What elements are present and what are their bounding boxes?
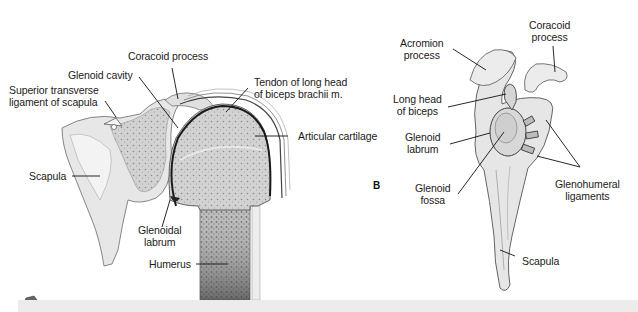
label-glenoid-labrum-b: Glenoid labrum xyxy=(405,131,441,155)
label-long-head-line1: Long head xyxy=(393,93,442,105)
label-tendon-line1: Tendon of long head xyxy=(254,76,347,88)
label-humerus: Humerus xyxy=(149,258,191,270)
label-coracoid-b-line1: Coracoid xyxy=(529,19,570,31)
label-superior-transverse-line1: Superior transverse xyxy=(9,84,99,96)
label-glenoidal-labrum: Glenoidal labrum xyxy=(138,224,181,248)
label-coracoid-process-a: Coracoid process xyxy=(128,50,208,62)
label-scapula-a: Scapula xyxy=(29,170,66,182)
label-glenoid-cavity: Glenoid cavity xyxy=(68,69,133,81)
panel-letter-b: B xyxy=(373,180,380,191)
footer-bar xyxy=(18,300,638,312)
label-superior-transverse-line2: ligament of scapula xyxy=(9,96,99,108)
label-glenoidal-labrum-line1: Glenoidal xyxy=(138,224,181,236)
label-glenoid-fossa-line1: Glenoid xyxy=(415,182,451,194)
label-glenoid-fossa: Glenoid fossa xyxy=(415,182,451,206)
label-acromion-line2: process xyxy=(400,49,444,61)
label-glenohumeral-line1: Glenohumeral xyxy=(555,178,620,190)
label-glenohumeral-line2: ligaments xyxy=(555,190,620,202)
label-tendon-biceps: Tendon of long head of biceps brachii m. xyxy=(254,76,347,100)
label-acromion-process: Acromion process xyxy=(400,37,444,61)
label-glenohumeral-ligaments: Glenohumeral ligaments xyxy=(555,178,620,202)
label-tendon-line2: of biceps brachii m. xyxy=(254,88,347,100)
label-glenoid-labrum-b-line2: labrum xyxy=(405,143,441,155)
label-long-head-line2: of biceps xyxy=(393,105,442,117)
label-coracoid-b-line2: process xyxy=(529,31,570,43)
figure-b-artwork xyxy=(448,46,580,290)
label-long-head-biceps: Long head of biceps xyxy=(393,93,442,117)
label-acromion-line1: Acromion xyxy=(400,37,444,49)
label-superior-transverse-ligament: Superior transverse ligament of scapula xyxy=(9,84,99,108)
label-glenoid-labrum-b-line1: Glenoid xyxy=(405,131,441,143)
label-scapula-b: Scapula xyxy=(522,255,559,267)
label-glenoidal-labrum-line2: labrum xyxy=(138,236,181,248)
label-articular-cartilage: Articular cartilage xyxy=(298,130,377,142)
shoulder-joint-diagram: Coracoid process Glenoid cavity Superior… xyxy=(0,0,638,312)
label-coracoid-process-b: Coracoid process xyxy=(529,19,570,43)
label-glenoid-fossa-line2: fossa xyxy=(415,194,451,206)
